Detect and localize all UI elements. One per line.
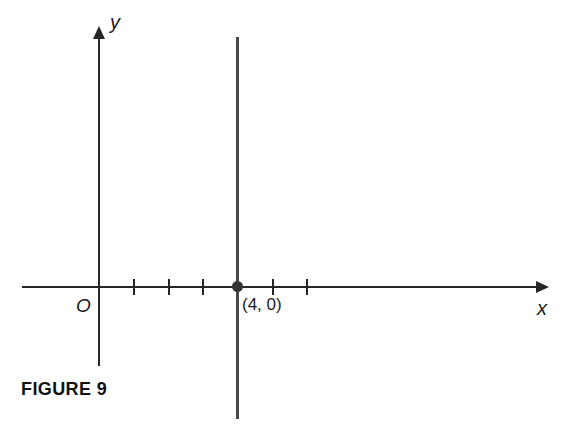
coordinate-plane-figure: y x O (4, 0) FIGURE 9 bbox=[0, 0, 576, 432]
y-axis-label: y bbox=[110, 12, 120, 32]
y-axis-arrowhead-icon bbox=[93, 26, 105, 39]
x-axis-tick bbox=[168, 279, 170, 295]
y-axis-line bbox=[98, 36, 100, 366]
point-dot bbox=[232, 281, 243, 292]
origin-label: O bbox=[76, 296, 91, 315]
x-axis-tick bbox=[202, 279, 204, 295]
x-axis-label: x bbox=[537, 298, 547, 318]
x-axis-tick bbox=[306, 279, 308, 295]
x-axis-arrowhead-icon bbox=[536, 281, 549, 293]
x-axis-tick bbox=[133, 279, 135, 295]
x-axis-tick bbox=[272, 279, 274, 295]
point-coordinates-label: (4, 0) bbox=[242, 296, 282, 315]
figure-caption: FIGURE 9 bbox=[21, 379, 107, 400]
vertical-line-x-equals-4 bbox=[236, 37, 239, 419]
